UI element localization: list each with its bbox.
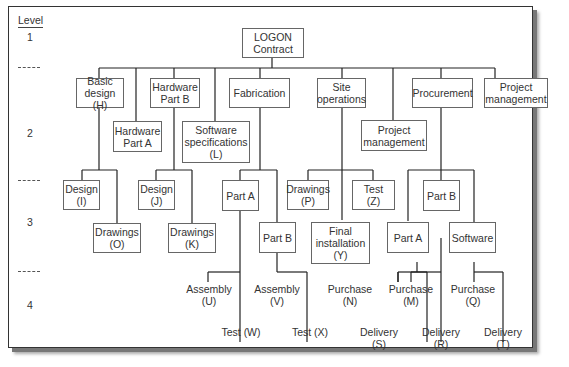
node-test-w: Test (W) [218,326,264,338]
node-fabrication-part-a: Part A [222,180,259,211]
level-divider [18,180,40,181]
level-4-label: 4 [27,299,33,311]
level-3-label: 3 [27,216,33,228]
node-purchase-n: Purchase (N) [325,283,375,307]
node-drawings-k: Drawings (K) [168,223,216,253]
node-hardware-part-b: Hardware Part B [150,78,200,108]
node-drawings-o: Drawings (O) [93,223,141,253]
node-procurement-part-b: Part B [423,180,460,211]
node-delivery-t: Delivery (T) [478,326,528,350]
node-procurement-part-a: Part A [387,222,429,253]
node-delivery-r: Delivery (R) [416,326,466,350]
node-procurement: Procurement [412,78,473,108]
node-fabrication-part-b: Part B [259,222,296,253]
level-1-label: 1 [27,31,33,43]
node-fabrication: Fabrication [229,78,290,108]
node-design-j: Design (J) [138,180,175,210]
node-procurement-software: Software [449,222,496,253]
node-basic-design: Basic design (H) [76,78,124,108]
node-software-specifications: Software specifications (L) [182,121,250,163]
node-logon-contract: LOGON Contract [242,28,304,58]
node-design-i: Design (I) [63,180,100,210]
node-purchase-q: Purchase (Q) [448,283,498,307]
node-final-installation-y: Final installation (Y) [311,222,370,264]
node-delivery-s: Delivery (S) [354,326,404,350]
node-project-management-level2: Project management [361,120,427,151]
node-assembly-u: Assembly (U) [186,283,232,307]
node-test-x: Test (X) [287,326,333,338]
node-drawings-p: Drawings (P) [287,180,329,210]
node-project-management: Project management [484,78,548,108]
level-2-label: 2 [27,127,33,139]
node-site-operations: Site operations [317,78,366,108]
level-divider [18,271,40,272]
node-assembly-v: Assembly (V) [254,283,300,307]
level-divider [18,67,40,68]
node-purchase-m: Purchase (M) [386,283,436,307]
node-hardware-part-a: Hardware Part A [113,121,162,152]
node-test-z: Test (Z) [352,180,395,210]
level-header: Level [18,14,43,28]
